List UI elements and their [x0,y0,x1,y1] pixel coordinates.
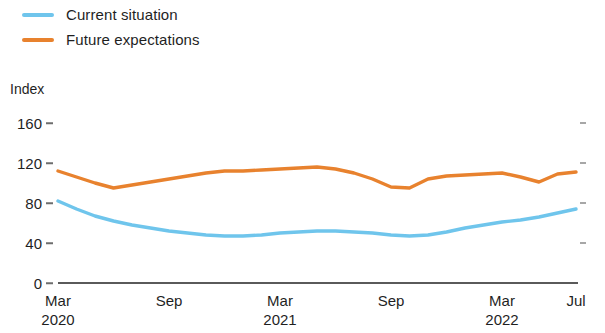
x-tick-month: Mar [267,292,293,309]
x-tick-year: 2020 [41,310,74,329]
x-tick-label: Sep [378,291,405,310]
y-tick-mark [46,242,53,244]
plot-area [0,0,605,333]
x-tick-label: Mar2020 [41,291,74,329]
index-line-chart: Current situation Future expectations In… [0,0,605,333]
plot-svg [0,0,605,333]
y-tick-mark [46,162,53,164]
y-tick-mark [46,282,53,284]
x-tick-label: Jul [566,291,585,310]
x-tick-month: Mar [489,292,515,309]
x-tick-month: Mar [45,292,71,309]
y-tick-label: 0 [0,275,42,292]
y-tick-label: 40 [0,235,42,252]
y-tick-label: 120 [0,155,42,172]
x-tick-label: Mar2021 [263,291,296,329]
y-tick-label: 80 [0,195,42,212]
x-tick-month: Sep [378,292,405,309]
x-tick-month: Jul [566,292,585,309]
x-tick-label: Mar2022 [485,291,518,329]
x-tick-year: 2022 [485,310,518,329]
x-tick-month: Sep [156,292,183,309]
y-tick-mark [46,122,53,124]
y-tick-label: 160 [0,115,42,132]
x-tick-label: Sep [156,291,183,310]
series-line-current-situation [58,201,576,236]
y-tick-mark [46,202,53,204]
x-tick-year: 2021 [263,310,296,329]
series-line-future-expectations [58,167,576,188]
